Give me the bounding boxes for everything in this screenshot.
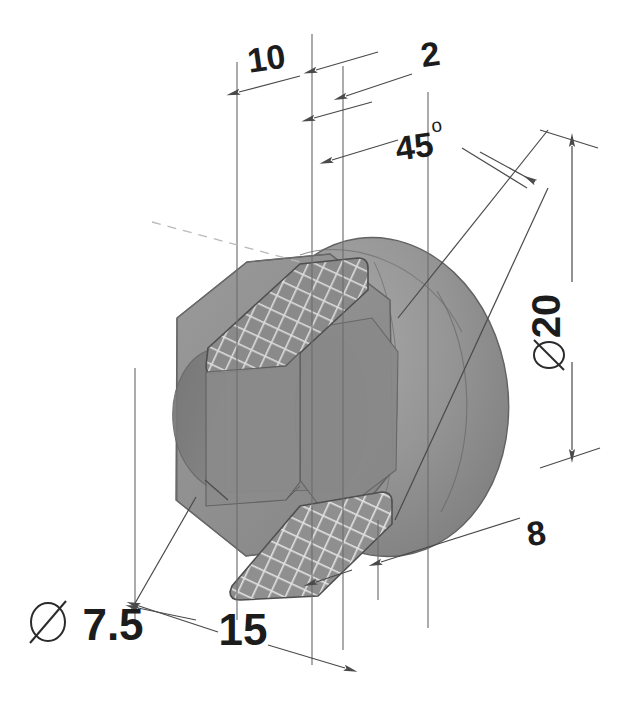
leader-2 — [346, 74, 412, 96]
technical-drawing-canvas: 10 2 45 o 20 8 15 7.5 — [0, 0, 625, 702]
leader-dia75-diagonal — [130, 497, 196, 612]
dimension-label-2: 2 — [418, 34, 442, 74]
leader-45-left — [332, 140, 398, 160]
dia20-witness-bottom — [540, 448, 600, 468]
dashed-construction-line — [152, 222, 300, 262]
leader-15-right — [268, 645, 345, 668]
cut-plane-surface — [206, 352, 300, 506]
dia20-witness-top — [540, 130, 598, 148]
dia-slash-75 — [30, 601, 66, 643]
leader-10-left — [239, 76, 300, 92]
leader-10-right-upper — [316, 52, 378, 70]
leader-dia75-horizontal — [138, 608, 196, 620]
dimension-label-dia20-group: 20 — [524, 294, 568, 370]
dimension-label-dia20: 20 — [524, 294, 568, 339]
dimension-label-45: 45 — [393, 125, 436, 168]
dashed-leader — [152, 222, 300, 262]
cut-plane-face — [206, 352, 300, 506]
part-body-group — [166, 221, 529, 600]
dimension-label-dia75-group: 7.5 — [30, 600, 144, 649]
dimension-label-15: 15 — [219, 605, 268, 654]
leader-15-left — [139, 606, 218, 632]
degree-symbol-icon: o — [430, 114, 443, 136]
dimension-label-8: 8 — [524, 513, 548, 553]
diameter-symbol-icon-20 — [534, 340, 564, 370]
dimension-label-45-group: 45 o — [392, 114, 447, 167]
drawing-svg: 10 2 45 o 20 8 15 7.5 — [0, 0, 625, 702]
diameter-symbol-icon-75 — [30, 601, 66, 643]
dimension-label-10: 10 — [245, 37, 288, 80]
dimension-label-dia75: 7.5 — [82, 600, 143, 649]
